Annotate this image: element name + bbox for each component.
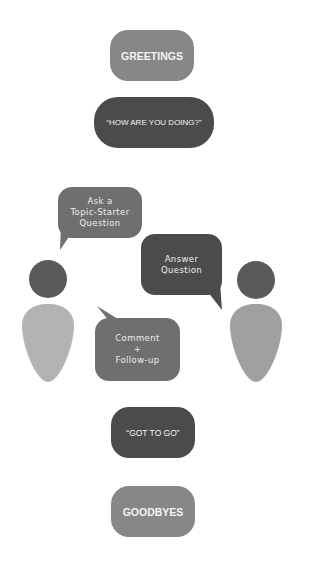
ask-bubble-tail [55, 225, 85, 255]
answer-bubble-tail [198, 282, 228, 312]
how-are-you-box: “HOW ARE YOU DOING?” [94, 97, 214, 148]
how-are-you-label: “HOW ARE YOU DOING?” [106, 118, 201, 127]
greetings-label: GREETINGS [121, 50, 183, 62]
got-to-go-label: “GOT TO GO” [126, 428, 179, 438]
greetings-box: GREETINGS [110, 30, 194, 81]
goodbyes-label: GOODBYES [123, 506, 184, 518]
left-person-body-icon [22, 304, 74, 382]
ask-bubble-label: Ask a Topic-Starter Question [70, 196, 129, 229]
left-person-head-icon [29, 260, 67, 298]
got-to-go-box: “GOT TO GO” [111, 407, 195, 458]
right-person-head-icon [237, 261, 275, 299]
answer-bubble-label: Answer Question [161, 254, 202, 276]
goodbyes-box: GOODBYES [111, 486, 195, 537]
comment-bubble-tail [95, 305, 125, 330]
right-person-body-icon [230, 304, 282, 382]
comment-bubble-label: Comment + Follow-up [115, 333, 159, 366]
